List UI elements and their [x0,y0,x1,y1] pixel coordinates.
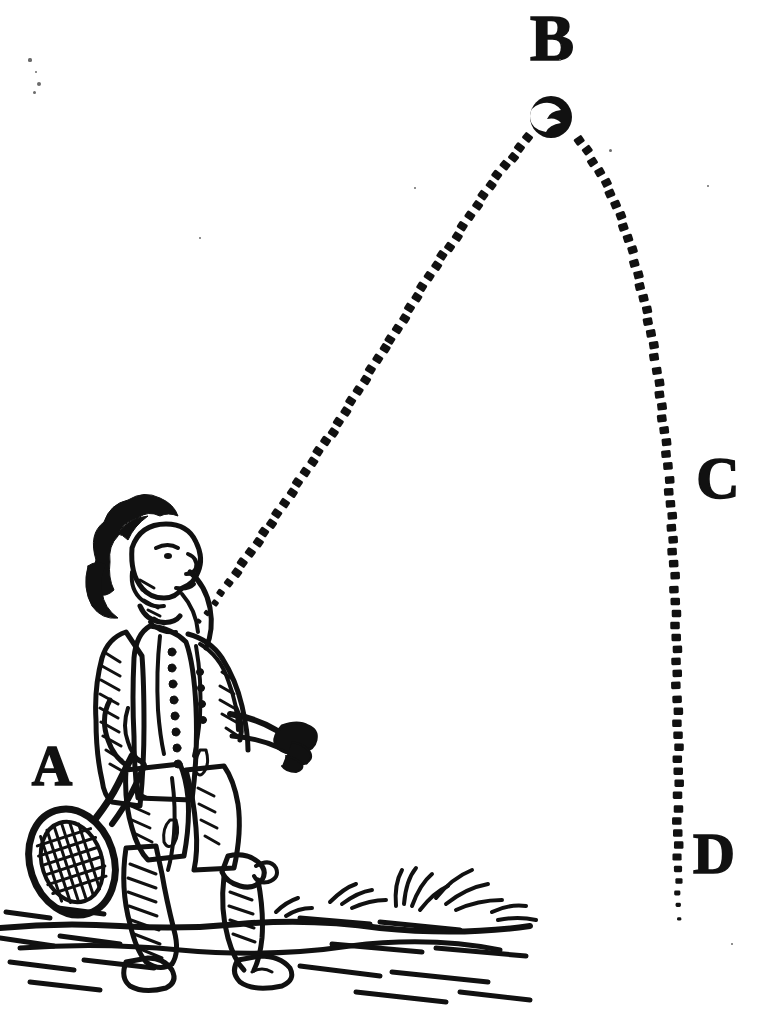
trajectory-dash [223,578,234,588]
trajectory-dash [672,670,682,678]
trajectory-dash [670,572,680,580]
trajectory-dash [352,385,364,396]
trajectory-dash [332,416,344,427]
trajectory-dash [674,866,682,872]
trajectory-dash [669,586,679,594]
trajectory-dash [485,179,497,191]
trajectory-dash [661,450,671,458]
trajectory-dash [671,634,681,642]
trajectory-dash [307,456,319,467]
trajectory-dash [674,805,684,813]
trajectory-dash [291,477,303,489]
trajectory-dash [456,220,468,231]
trajectory-dash [673,829,683,837]
trajectory-dash [665,476,675,484]
scan-speck [609,149,612,152]
trajectory-dash [464,210,476,221]
trajectory-dash [649,341,660,350]
tennis-ball-icon [530,96,572,138]
woodcut-figure: A B C D [0,0,768,1028]
trajectory-dash [649,353,660,362]
label-b: B [530,5,574,71]
trajectory-dash [258,526,270,538]
trajectory-dash [674,743,684,751]
trajectory-dash [677,917,681,920]
trajectory-dash [416,281,428,292]
trajectory-dash [610,199,622,210]
trajectory-dash [451,231,463,242]
trajectory-dash [654,390,664,399]
trajectory-dash [673,731,683,739]
trajectory-dash [674,779,684,787]
trajectory-dash [657,414,667,423]
trajectory-dash [312,446,324,458]
trajectory-dash [665,500,675,508]
trajectory-dash [360,374,372,385]
trajectory-dash [654,378,664,387]
trajectory-dash [661,438,671,446]
trajectory-dash [622,233,633,243]
trajectory-dash [657,402,667,411]
trajectory-dash [507,151,519,163]
trajectory-dash [673,791,683,799]
label-c: C [696,448,739,508]
scan-speck [33,91,36,94]
trajectory-dash [477,189,489,201]
trajectory-dash [266,518,278,530]
trajectory-dash [672,853,681,860]
trajectory-dash [676,903,681,907]
trajectory-dash [299,466,311,478]
trajectory-dash [216,588,226,597]
trajectory-dash [642,305,653,314]
trajectory-dash [391,323,403,334]
trajectory-dash [340,406,352,417]
trajectory-dash [667,548,677,556]
trajectory-dash [671,681,681,689]
trajectory-dash [320,435,332,446]
trajectory-dash [672,610,682,618]
trajectory-dash [231,567,243,579]
trajectory-dash [674,707,684,715]
trajectory-dash [327,427,339,438]
trajectory-path [195,132,683,921]
trajectory-dash [423,270,435,281]
woodcut-artwork [0,0,768,1028]
tennis-player-figure [86,494,317,990]
trajectory-dash [663,462,673,470]
trajectory-dash [472,200,484,212]
trajectory-dash [638,293,649,302]
trajectory-dash [618,222,629,232]
trajectory-dash [652,366,662,375]
trajectory-dash [252,536,264,548]
scan-speck [28,58,31,61]
trajectory-dash [513,142,525,154]
trajectory-dash [634,282,645,292]
trajectory-dash [271,508,283,520]
trajectory-dash [573,135,585,147]
trajectory-dash [372,353,384,364]
trajectory-dash [615,211,626,221]
trajectory-dash [236,557,248,569]
trajectory-dash [627,245,638,255]
trajectory-dash [646,329,657,338]
trajectory-dash [672,817,682,825]
trajectory-dash [345,395,357,406]
trajectory-dash [586,156,598,167]
trajectory-dash [670,598,680,606]
trajectory-dash [411,292,423,303]
trajectory-dash [671,658,681,666]
trajectory-dash [244,547,256,559]
trajectory-dash [604,188,616,199]
trajectory-dash [436,250,448,262]
trajectory-dash [444,241,456,253]
trajectory-dash [673,755,683,763]
trajectory-dash [666,524,676,532]
trajectory-dash [667,512,677,520]
trajectory-dash [629,258,640,268]
trajectory-dash [581,144,593,156]
trajectory-dash [594,167,606,178]
trajectory-dash [673,767,683,775]
trajectory-dash [672,695,682,703]
ground-with-grass [0,868,536,1002]
trajectory-dash [491,169,503,181]
